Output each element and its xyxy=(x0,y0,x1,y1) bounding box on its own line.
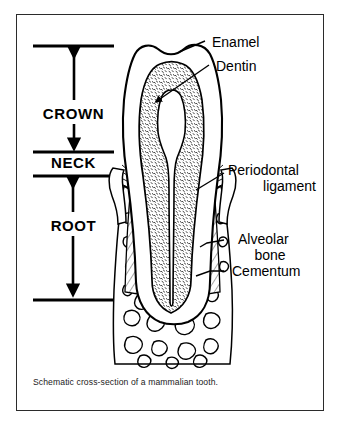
zone-label-crown: CROWN xyxy=(33,105,114,122)
tooth-diagram-artwork xyxy=(0,0,341,426)
callout-periodontal-line2: ligament xyxy=(228,179,316,194)
figure-caption: Schematic cross-section of a mammalian t… xyxy=(33,377,313,387)
tooth-figure: CROWN NECK ROOT Enamel Dentin Periodonta… xyxy=(0,0,341,426)
callout-cementum: Cementum xyxy=(232,264,300,279)
zone-label-neck: NECK xyxy=(33,154,114,171)
callout-alveolar-line1: Alveolar xyxy=(238,232,289,247)
callout-periodontal-line1: Periodontal xyxy=(228,163,299,178)
zone-label-root: ROOT xyxy=(33,217,114,234)
callout-enamel: Enamel xyxy=(212,35,259,50)
callout-alveolar-line2: bone xyxy=(238,248,302,263)
callout-dentin: Dentin xyxy=(216,59,256,74)
